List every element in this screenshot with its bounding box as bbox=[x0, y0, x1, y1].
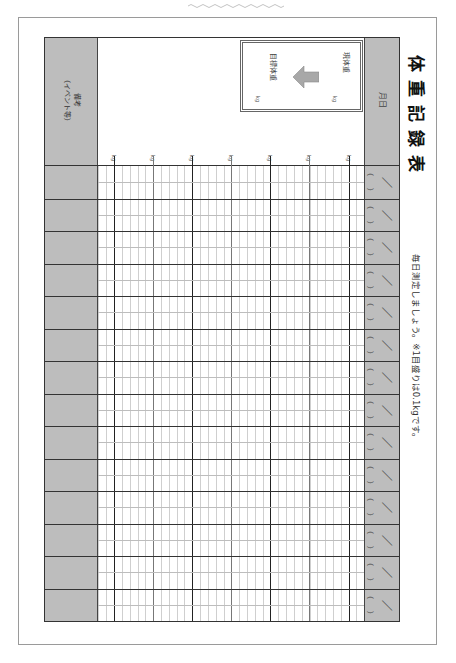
target-weight-unit: kg bbox=[253, 94, 263, 104]
remarks-cell[interactable] bbox=[45, 231, 98, 264]
date-paren-open: （ bbox=[366, 169, 376, 176]
date-paren-open: （ bbox=[366, 461, 376, 468]
date-cell[interactable]: （／） bbox=[364, 524, 400, 557]
weight-entry-row[interactable] bbox=[98, 199, 364, 232]
date-cell[interactable]: （／） bbox=[364, 264, 400, 297]
date-cell[interactable]: （／） bbox=[364, 199, 400, 232]
grid-tick bbox=[309, 156, 310, 166]
date-slash: ／ bbox=[380, 307, 396, 318]
instruction-note: 毎日測定しましょう。※1目盛りは0.1kgです。 bbox=[405, 218, 429, 478]
remarks-cell[interactable] bbox=[45, 361, 98, 394]
date-paren-close: ） bbox=[366, 513, 376, 520]
page-title: 体重記録表 bbox=[401, 58, 433, 176]
date-paren-open: （ bbox=[366, 364, 376, 371]
date-paren-close: ） bbox=[366, 578, 376, 585]
date-cell[interactable]: （／） bbox=[364, 556, 400, 589]
date-cell[interactable]: （／） bbox=[364, 491, 400, 524]
date-cell[interactable]: （／） bbox=[364, 231, 400, 264]
remarks-header-label: 備考 （イベント等） bbox=[34, 80, 108, 120]
remarks-cell[interactable] bbox=[45, 459, 98, 492]
instruction-note-text: 毎日測定しましょう。※1目盛りは0.1kgです。 bbox=[411, 254, 423, 441]
date-cell[interactable]: （／） bbox=[364, 426, 400, 459]
remarks-cell[interactable] bbox=[45, 199, 98, 232]
date-header-label: 月日 bbox=[366, 90, 398, 110]
date-slash: ／ bbox=[380, 599, 396, 610]
date-paren-close: ） bbox=[366, 253, 376, 260]
date-paren-open: （ bbox=[366, 526, 376, 533]
date-paren-close: ） bbox=[366, 318, 376, 325]
remarks-cell[interactable] bbox=[45, 329, 98, 362]
date-slash: ／ bbox=[380, 274, 396, 285]
date-cell[interactable]: （／） bbox=[364, 459, 400, 492]
weight-entry-row[interactable] bbox=[98, 329, 364, 362]
current-weight-label: 現体重 bbox=[336, 50, 356, 74]
date-paren-close: ） bbox=[366, 448, 376, 455]
date-cell[interactable]: （／） bbox=[364, 329, 400, 362]
date-cell[interactable]: （／） bbox=[364, 589, 400, 622]
date-paren-open: （ bbox=[366, 201, 376, 208]
date-paren-close: ） bbox=[366, 610, 376, 617]
date-cell[interactable]: （／） bbox=[364, 361, 400, 394]
decorative-wave-icon bbox=[188, 2, 284, 10]
remarks-cell[interactable] bbox=[45, 394, 98, 427]
date-paren-close: ） bbox=[366, 285, 376, 292]
date-cell[interactable]: （／） bbox=[364, 394, 400, 427]
arrow-left-icon bbox=[293, 66, 319, 88]
date-paren-open: （ bbox=[366, 494, 376, 501]
weight-entry-row[interactable] bbox=[98, 459, 364, 492]
date-paren-open: （ bbox=[366, 266, 376, 273]
date-paren-close: ） bbox=[366, 545, 376, 552]
date-paren-close: ） bbox=[366, 188, 376, 195]
date-paren-close: ） bbox=[366, 350, 376, 357]
page-title-text: 体重記録表 bbox=[405, 55, 430, 180]
date-paren-close: ） bbox=[366, 480, 376, 487]
date-slash: ／ bbox=[380, 534, 396, 545]
date-cell[interactable]: （／） bbox=[364, 166, 400, 199]
remarks-cell[interactable] bbox=[45, 296, 98, 329]
remarks-header-subtext: （イベント等） bbox=[61, 76, 71, 125]
date-slash: ／ bbox=[380, 209, 396, 220]
date-slash: ／ bbox=[380, 404, 396, 415]
remarks-header-text: 備考 bbox=[71, 76, 81, 125]
date-cell[interactable]: （／） bbox=[364, 296, 400, 329]
date-paren-open: （ bbox=[366, 234, 376, 241]
date-paren-close: ） bbox=[366, 415, 376, 422]
date-paren-open: （ bbox=[366, 299, 376, 306]
date-paren-open: （ bbox=[366, 591, 376, 598]
target-weight-label: 目標体重 bbox=[264, 50, 284, 84]
weight-entry-row[interactable] bbox=[98, 491, 364, 524]
date-paren-close: ） bbox=[366, 220, 376, 227]
weight-entry-row[interactable] bbox=[98, 556, 364, 589]
date-slash: ／ bbox=[380, 372, 396, 383]
date-paren-open: （ bbox=[366, 429, 376, 436]
weight-entry-row[interactable] bbox=[98, 166, 364, 199]
remarks-cell[interactable] bbox=[45, 491, 98, 524]
remarks-cell[interactable] bbox=[45, 264, 98, 297]
date-paren-open: （ bbox=[366, 331, 376, 338]
weight-entry-row[interactable] bbox=[98, 231, 364, 264]
date-slash: ／ bbox=[380, 469, 396, 480]
date-paren-open: （ bbox=[366, 559, 376, 566]
grid-tick bbox=[153, 156, 154, 166]
remarks-cell[interactable] bbox=[45, 426, 98, 459]
weight-entry-row[interactable] bbox=[98, 426, 364, 459]
grid-tick bbox=[231, 156, 232, 166]
date-header-text: 月日 bbox=[372, 92, 392, 108]
current-weight-unit: kg bbox=[330, 94, 340, 104]
date-slash: ／ bbox=[380, 339, 396, 350]
date-slash: ／ bbox=[380, 502, 396, 513]
remarks-cell[interactable] bbox=[45, 556, 98, 589]
weight-entry-row[interactable] bbox=[98, 589, 364, 622]
date-slash: ／ bbox=[380, 177, 396, 188]
date-slash: ／ bbox=[380, 437, 396, 448]
remarks-cell[interactable] bbox=[45, 524, 98, 557]
remarks-cell[interactable] bbox=[45, 589, 98, 622]
weight-entry-row[interactable] bbox=[98, 361, 364, 394]
weight-entry-row[interactable] bbox=[98, 264, 364, 297]
date-slash: ／ bbox=[380, 567, 396, 578]
weight-entry-row[interactable] bbox=[98, 296, 364, 329]
weight-entry-row[interactable] bbox=[98, 394, 364, 427]
remarks-cell[interactable] bbox=[45, 166, 98, 199]
weight-entry-row[interactable] bbox=[98, 524, 364, 557]
date-slash: ／ bbox=[380, 242, 396, 253]
